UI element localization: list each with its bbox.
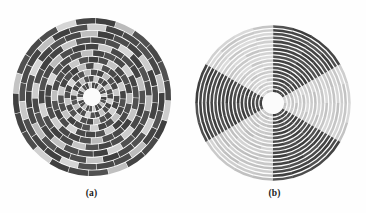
- polar-ring-chart-b: [183, 0, 366, 186]
- figure-sheet: (a) (b): [0, 0, 366, 213]
- panel-a-caption: (a): [0, 188, 183, 198]
- polar-ring-chart-a: [0, 0, 183, 186]
- figure-panel-b: (b): [183, 0, 366, 213]
- panel-b-caption: (b): [183, 188, 366, 198]
- figure-panel-a: (a): [0, 0, 183, 213]
